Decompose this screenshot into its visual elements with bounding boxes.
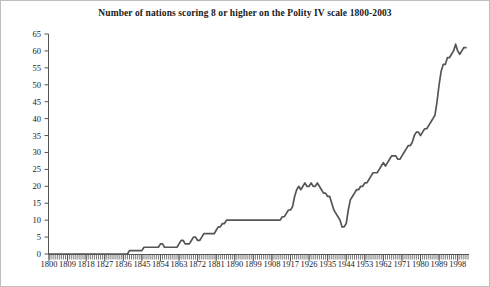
y-tick-label: 55 [33, 63, 42, 73]
x-tick-label: 1845 [133, 259, 150, 269]
x-tick-label: 1998 [449, 259, 466, 269]
x-tick-label: 1809 [59, 259, 76, 269]
x-tick-label: 1944 [338, 259, 355, 269]
y-tick-marks [45, 34, 49, 254]
x-tick-label: 1899 [245, 259, 262, 269]
y-tick-label: 0 [37, 249, 41, 259]
x-tick-label: 1989 [431, 259, 448, 269]
y-tick-label: 5 [37, 232, 41, 242]
x-axis-labels: 1800180918181827183618451854186318721881… [48, 259, 469, 275]
x-tick-label: 1917 [282, 259, 299, 269]
y-tick-label: 15 [33, 198, 42, 208]
y-tick-label: 20 [33, 181, 42, 191]
x-tick-label: 1818 [78, 259, 95, 269]
chart-frame: Number of nations scoring 8 or higher on… [0, 0, 490, 287]
y-axis-labels: 05101520253035404550556065 [1, 34, 41, 255]
x-tick-label: 1935 [319, 259, 336, 269]
x-tick-label: 1863 [171, 259, 188, 269]
x-tick-label: 1971 [393, 259, 410, 269]
x-tick-label: 1800 [41, 259, 58, 269]
x-tick-label: 1890 [226, 259, 243, 269]
y-tick-label: 65 [33, 29, 42, 39]
chart-title: Number of nations scoring 8 or higher on… [1, 8, 489, 18]
x-tick-label: 1953 [356, 259, 373, 269]
y-axis-group [45, 34, 49, 255]
x-tick-label: 1881 [208, 259, 225, 269]
y-tick-label: 60 [33, 46, 42, 56]
plot-area [48, 34, 469, 255]
x-tick-label: 1827 [96, 259, 113, 269]
y-tick-label: 35 [33, 131, 42, 141]
y-tick-label: 10 [33, 215, 42, 225]
x-tick-label: 1926 [301, 259, 318, 269]
x-tick-label: 1962 [375, 259, 392, 269]
y-tick-label: 25 [33, 164, 42, 174]
x-tick-label: 1836 [115, 259, 132, 269]
chart-svg [48, 34, 469, 255]
y-tick-label: 30 [33, 147, 42, 157]
x-tick-label: 1854 [152, 259, 169, 269]
y-tick-label: 40 [33, 114, 42, 124]
x-tick-label: 1908 [263, 259, 280, 269]
data-series-line [49, 44, 466, 254]
x-tick-label: 1872 [189, 259, 206, 269]
x-tick-label: 1980 [412, 259, 429, 269]
y-tick-label: 50 [33, 80, 42, 90]
y-tick-label: 45 [33, 97, 42, 107]
